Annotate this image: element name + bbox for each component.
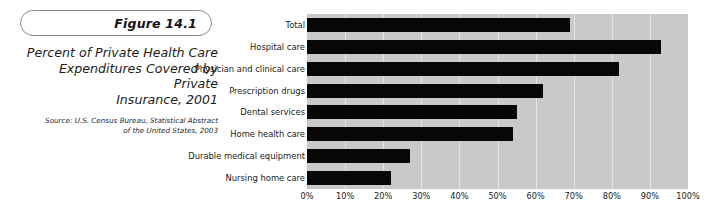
figure-title: Percent of Private Health Care Expenditu… <box>14 45 218 107</box>
bar <box>307 127 513 141</box>
value-tick-label: 60% <box>526 191 544 201</box>
value-tick-label: 40% <box>450 191 468 201</box>
bar <box>307 149 410 163</box>
value-tick-label: 80% <box>603 191 621 201</box>
category-label: Hospital care <box>5 42 305 52</box>
value-tick-label: 20% <box>374 191 392 201</box>
bar <box>307 105 517 119</box>
bar <box>307 40 661 54</box>
figure-source-line-1: Source: U.S. Census Bureau, Statistical … <box>14 116 218 126</box>
plot-area <box>307 14 688 189</box>
category-axis: TotalHospital carePhysician and clinical… <box>232 14 305 189</box>
bar-chart: TotalHospital carePhysician and clinical… <box>232 0 706 224</box>
category-label: Home health care <box>5 129 305 139</box>
value-tick-label: 30% <box>412 191 430 201</box>
category-label: Total <box>5 20 305 30</box>
figure-page: Figure 14.1 Percent of Private Health Ca… <box>0 0 706 224</box>
category-label: Prescription drugs <box>5 86 305 96</box>
value-tick-label: 10% <box>336 191 354 201</box>
value-tick-label: 90% <box>641 191 659 201</box>
bar <box>307 18 570 32</box>
bar <box>307 62 619 76</box>
value-axis: 0%10%20%30%40%50%60%70%80%90%100% <box>307 191 688 207</box>
value-tick-label: 70% <box>565 191 583 201</box>
value-tick-label: 100% <box>676 191 699 201</box>
category-label: Physician and clinical care <box>5 64 305 74</box>
bar <box>307 171 391 185</box>
category-label: Nursing home care <box>5 173 305 183</box>
category-label: Dental services <box>5 107 305 117</box>
category-label: Durable medical equipment <box>5 151 305 161</box>
value-tick-label: 50% <box>488 191 506 201</box>
bar <box>307 84 543 98</box>
value-tick-label: 0% <box>301 191 314 201</box>
